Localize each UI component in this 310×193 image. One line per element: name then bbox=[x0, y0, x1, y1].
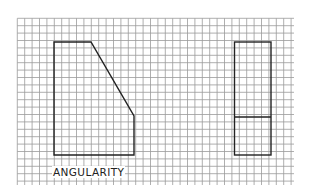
grid-paper bbox=[17, 18, 294, 185]
block-side-view bbox=[235, 42, 272, 155]
diagram-caption: ANGULARITY bbox=[52, 166, 125, 178]
chamfered-block-front-view bbox=[54, 42, 134, 155]
angularity-diagram bbox=[0, 0, 310, 193]
